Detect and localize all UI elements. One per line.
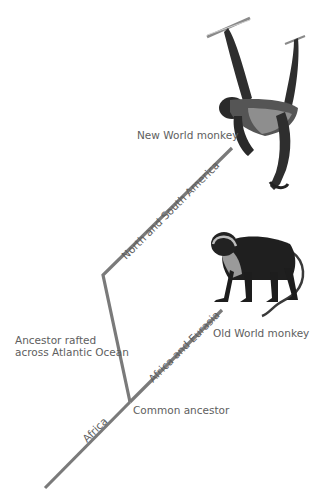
branch-africa <box>45 402 130 488</box>
rafted-annotation-line2: across Atlantic Ocean <box>15 346 129 358</box>
common-ancestor-label: Common ancestor <box>133 404 229 416</box>
new-world-monkey-icon <box>207 18 305 190</box>
tree-lines <box>0 0 318 504</box>
old-world-monkey-icon <box>211 232 303 316</box>
evolution-diagram: New World monkey Old World monkey Common… <box>0 0 318 504</box>
old-world-monkey-label: Old World monkey <box>213 327 309 339</box>
rafted-annotation-line1: Ancestor rafted <box>15 334 96 346</box>
new-world-monkey-label: New World monkey <box>137 129 238 141</box>
